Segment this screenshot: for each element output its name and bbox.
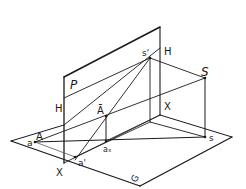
label-horizon-left: H — [55, 103, 63, 114]
perspective-diagram: P H H X X S s s' A a Ā aₓ a' G — [0, 0, 246, 189]
label-point-a: a — [27, 138, 33, 148]
label-picture-plane: P — [70, 78, 78, 92]
point-s — [204, 136, 207, 139]
line-a-prime-to-foot — [75, 122, 150, 157]
ray-S-s-prime — [150, 58, 205, 78]
label-station-image: s' — [142, 48, 149, 58]
ray-a-to-s — [35, 137, 205, 142]
point-a-x — [105, 140, 108, 143]
label-point-a-prime: a' — [78, 158, 86, 168]
label-ground-line-left: X — [56, 167, 63, 178]
point-a-prime — [74, 156, 77, 159]
label-point-A: A — [36, 131, 43, 142]
line-s-prime-to-a-prime — [75, 58, 150, 160]
label-point-a-x: aₓ — [103, 145, 112, 154]
point-A-bar — [105, 115, 108, 118]
line-a-to-a-prime — [35, 142, 75, 157]
label-point-A-bar: Ā — [97, 104, 104, 116]
label-horizon-right: H — [164, 46, 172, 57]
label-ground-line-right: X — [164, 101, 171, 112]
ground-s-to-foot — [150, 122, 205, 137]
line-a-x-to-right — [106, 115, 160, 141]
ground-plane — [11, 115, 232, 186]
label-station-ground: s — [209, 133, 214, 143]
diagram-canvas: P H H X X S s s' A a Ā aₓ a' G — [0, 0, 246, 189]
label-station-point: S — [201, 65, 209, 79]
